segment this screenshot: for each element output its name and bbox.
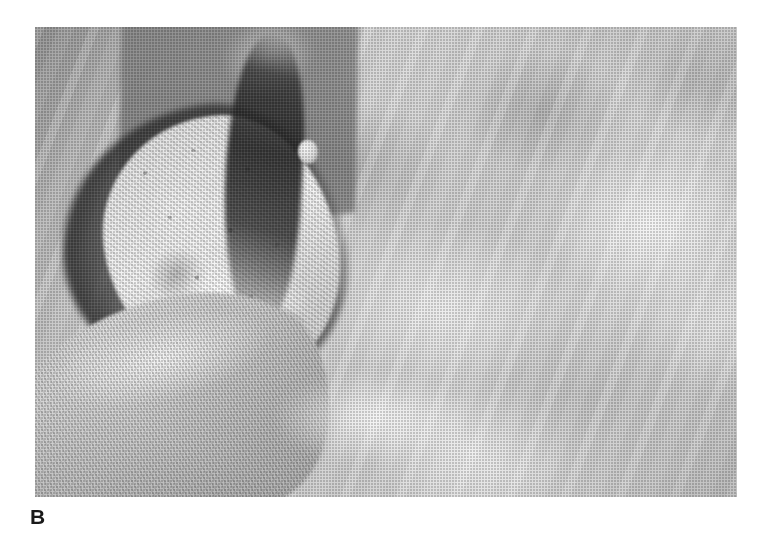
bright-fleck-highlight <box>298 140 318 164</box>
figure-photograph <box>35 27 737 497</box>
bottom-highlight-region <box>232 365 513 497</box>
figure-panel-label: B <box>30 506 45 528</box>
